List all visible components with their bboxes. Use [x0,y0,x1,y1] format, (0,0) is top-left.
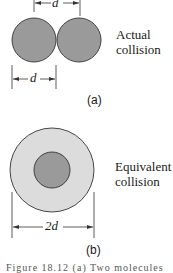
molecule-2 [57,18,101,62]
panel-a-graphic [12,0,101,89]
dim-label-2d: 2d [45,218,58,234]
dim-label-top-d: d [52,0,59,11]
molecule-core [34,152,70,188]
dim-label-bottom-d: d [30,70,37,86]
figure-caption: Figure 18.12 (a) Two molecules [6,262,164,273]
molecule-1 [12,18,56,62]
panel-a-label: (a) [87,93,102,107]
equivalent-label-line2: collision [115,174,160,189]
actual-label-line1: Actual [116,27,151,42]
panel-b-label: (b) [86,243,101,257]
equivalent-label-line1: Equivalent [115,159,171,174]
actual-label-line2: collision [116,42,161,57]
